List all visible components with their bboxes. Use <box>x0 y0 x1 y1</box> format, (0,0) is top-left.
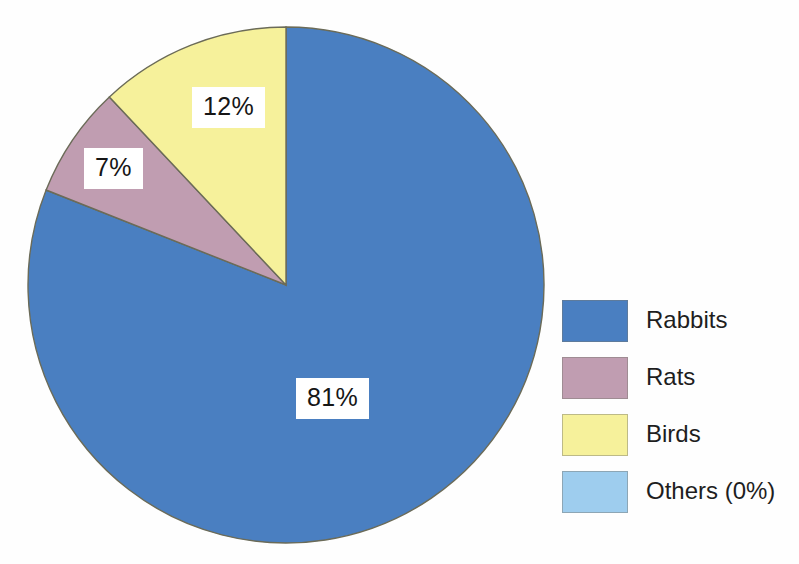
pie-plot-area <box>0 0 575 564</box>
legend-swatch-others <box>562 471 628 513</box>
legend: Rabbits Rats Birds Others (0%) <box>562 296 797 524</box>
legend-swatch-birds <box>562 414 628 456</box>
legend-item-rabbits[interactable]: Rabbits <box>562 296 797 353</box>
legend-label-others: Others (0%) <box>646 476 775 506</box>
pie-svg <box>0 0 575 564</box>
pie-chart: 81% 7% 12% Rabbits Rats Birds Others (0%… <box>0 0 799 564</box>
legend-item-rats[interactable]: Rats <box>562 353 797 410</box>
legend-swatch-rabbits <box>562 300 628 342</box>
legend-swatch-rats <box>562 357 628 399</box>
pie-slice-group <box>28 27 544 543</box>
slice-label-birds: 12% <box>192 87 265 128</box>
slice-label-rabbits: 81% <box>296 378 369 419</box>
legend-item-birds[interactable]: Birds <box>562 410 797 467</box>
legend-label-birds: Birds <box>646 419 701 449</box>
legend-label-rats: Rats <box>646 362 695 392</box>
legend-item-others[interactable]: Others (0%) <box>562 467 797 524</box>
slice-label-rats: 7% <box>84 148 143 189</box>
legend-label-rabbits: Rabbits <box>646 305 727 335</box>
